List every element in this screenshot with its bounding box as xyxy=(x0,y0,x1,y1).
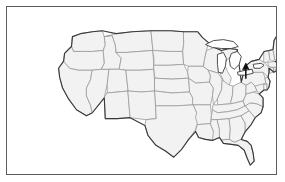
state-nm[interactable] xyxy=(128,91,156,120)
state-ut[interactable] xyxy=(107,69,128,93)
state-layer[interactable] xyxy=(59,31,276,165)
state-co[interactable] xyxy=(126,69,155,92)
map-frame xyxy=(6,6,277,175)
state-ne[interactable] xyxy=(154,64,189,79)
state-az[interactable] xyxy=(104,91,130,119)
state-ks[interactable] xyxy=(155,78,190,93)
state-ok[interactable] xyxy=(155,91,194,106)
state-nd[interactable] xyxy=(151,31,184,52)
state-wa[interactable] xyxy=(72,31,106,52)
lake-superior xyxy=(206,40,239,49)
us-map[interactable] xyxy=(7,7,276,174)
state-wy[interactable] xyxy=(116,50,154,70)
state-ma[interactable] xyxy=(268,61,276,67)
screenshot-root xyxy=(0,0,285,182)
state-de[interactable] xyxy=(264,84,267,90)
state-sd[interactable] xyxy=(153,50,184,65)
